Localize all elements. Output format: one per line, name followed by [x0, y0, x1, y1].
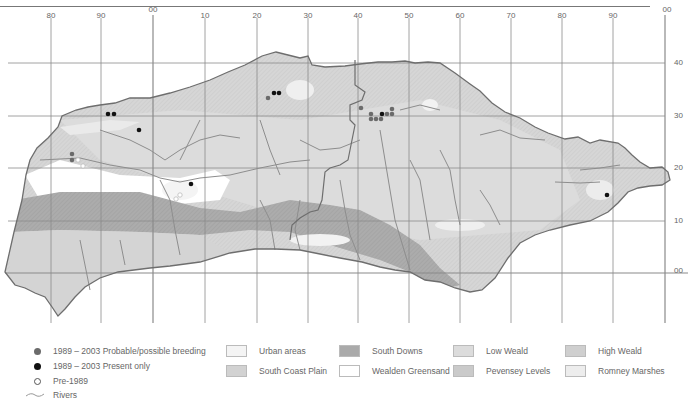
- south-coast-plain-swatch: [226, 365, 247, 377]
- x-tick: 80: [558, 11, 567, 20]
- legend-label: Urban areas: [259, 346, 306, 356]
- legend-pevensey-levels: Pevensey Levels: [453, 365, 550, 377]
- x-tick: 00: [663, 5, 672, 14]
- legend-label: Pre-1989: [53, 376, 88, 386]
- high-weald-swatch: [565, 345, 586, 357]
- legend-label: Rivers: [53, 390, 77, 400]
- urban-swatch: [226, 345, 247, 357]
- legend-label: Pevensey Levels: [486, 366, 550, 376]
- legend-south-coast-plain: South Coast Plain: [226, 365, 327, 377]
- legend-label: Wealden Greensand: [372, 366, 450, 376]
- legend-low-weald: Low Weald: [453, 345, 528, 357]
- legend-romney-marshes: Romney Marshes: [565, 365, 665, 377]
- legend-south-downs: South Downs: [339, 345, 423, 357]
- legend-present: 1989 – 2003 Present only: [30, 361, 150, 371]
- legend-pre1989: Pre-1989: [30, 376, 88, 386]
- x-tick: 40: [354, 11, 363, 20]
- legend-label: High Weald: [598, 346, 642, 356]
- river-line-icon: [26, 392, 44, 398]
- legend-breeding: 1989 – 2003 Probable/possible breeding: [30, 346, 206, 356]
- legend-label: 1989 – 2003 Probable/possible breeding: [53, 346, 206, 356]
- x-tick: 30: [304, 11, 313, 20]
- x-tick: 50: [405, 11, 414, 20]
- legend-wealden-greensand: Wealden Greensand: [339, 365, 450, 377]
- legend-label: Low Weald: [486, 346, 528, 356]
- x-tick: 80: [47, 11, 56, 20]
- south-downs-swatch: [339, 345, 360, 357]
- x-tick: 00: [149, 5, 158, 14]
- legend-label: Romney Marshes: [598, 366, 665, 376]
- legend-label: 1989 – 2003 Present only: [53, 361, 150, 371]
- legend-urban: Urban areas: [226, 345, 306, 357]
- legend-label: South Downs: [372, 346, 423, 356]
- wealden-greensand-swatch: [339, 365, 360, 377]
- legend-rivers: Rivers: [26, 390, 77, 400]
- y-tick: 00: [674, 266, 683, 275]
- y-tick: 20: [674, 163, 683, 172]
- y-tick: 40: [674, 58, 683, 67]
- x-tick: 90: [97, 11, 106, 20]
- sussex-distribution-map: [0, 0, 688, 330]
- y-tick: 10: [674, 216, 683, 225]
- legend-label: South Coast Plain: [259, 366, 327, 376]
- legend-high-weald: High Weald: [565, 345, 642, 357]
- x-tick: 60: [456, 11, 465, 20]
- x-tick: 70: [507, 11, 516, 20]
- low-weald-swatch: [453, 345, 474, 357]
- pevensey-levels-swatch: [453, 365, 474, 377]
- open-circle-icon: [34, 378, 41, 385]
- x-tick: 90: [609, 11, 618, 20]
- grey-dot-icon: [34, 348, 41, 355]
- black-dot-icon: [34, 363, 41, 370]
- romney-marshes-swatch: [565, 365, 586, 377]
- x-tick: 20: [253, 11, 262, 20]
- y-tick: 30: [674, 111, 683, 120]
- x-tick: 10: [201, 11, 210, 20]
